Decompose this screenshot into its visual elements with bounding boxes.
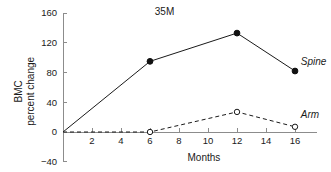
y-tick-label-80: 80	[46, 67, 57, 78]
y-tick-label-0: 0	[52, 126, 57, 137]
data-markers	[147, 30, 298, 135]
data-series	[63, 33, 295, 132]
y-tick-label-160: 160	[41, 7, 57, 18]
line-chart: −4004080120160246810121416 SpineArm 35M …	[0, 0, 331, 172]
marker-arm-6	[147, 129, 152, 134]
chart-figure: −4004080120160246810121416 SpineArm 35M …	[0, 0, 331, 172]
x-tick-label-8: 8	[176, 135, 181, 146]
y-tick-label-40: 40	[46, 97, 57, 108]
x-tick-label-14: 14	[261, 135, 272, 146]
x-axis-title: Months	[188, 152, 221, 163]
y-axis-title-line-2: percent change	[25, 56, 36, 125]
x-tick-label-16: 16	[290, 135, 301, 146]
series-labels: SpineArm	[300, 56, 327, 120]
x-tick-label-2: 2	[89, 135, 94, 146]
y-axis-title-line-1: BMC	[13, 80, 24, 102]
y-tick-label--40: −40	[41, 156, 57, 167]
chart-title: 35M	[155, 6, 174, 17]
marker-arm-12	[234, 109, 239, 114]
marker-spine-16	[292, 68, 298, 74]
x-tick-label-12: 12	[232, 135, 243, 146]
marker-arm-16	[292, 124, 297, 129]
series-label-spine: Spine	[301, 56, 327, 67]
series-line-spine	[63, 33, 295, 132]
marker-spine-12	[234, 30, 240, 36]
axis-tick-labels: −4004080120160246810121416	[41, 7, 300, 167]
x-tick-label-4: 4	[118, 135, 123, 146]
axes	[63, 13, 317, 162]
series-label-arm: Arm	[300, 109, 319, 120]
marker-spine-6	[147, 58, 153, 64]
x-tick-label-6: 6	[147, 135, 152, 146]
x-tick-label-10: 10	[203, 135, 214, 146]
y-tick-label-120: 120	[41, 37, 57, 48]
